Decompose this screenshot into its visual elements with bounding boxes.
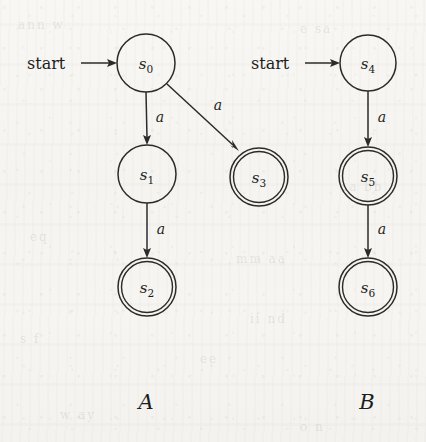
state-s6[interactable]: s6 — [339, 258, 397, 316]
state-s0-label: s0 — [139, 55, 153, 75]
machine-name-A: A — [136, 390, 153, 414]
start-arrow-s0 — [81, 59, 117, 67]
state-s5-label: s5 — [361, 168, 375, 188]
edge-s0-s1 — [143, 92, 151, 145]
state-s4[interactable]: s4 — [340, 35, 396, 91]
state-s3-label: s3 — [252, 169, 266, 189]
automaton-B: start s4 a s5 a — [251, 35, 397, 414]
state-s2[interactable]: s2 — [118, 258, 176, 316]
edge-label-s4-s5: a — [378, 109, 386, 125]
edge-s0-s3 — [167, 84, 239, 151]
automata-svg: start s0 a a s1 — [0, 0, 426, 442]
machine-name-B: B — [358, 390, 374, 414]
edge-s1-s2 — [143, 203, 151, 258]
state-s6-label: s6 — [361, 279, 376, 299]
edge-s4-s5 — [364, 91, 372, 147]
state-s1[interactable]: s1 — [118, 145, 176, 203]
start-label-B: start — [251, 54, 290, 73]
automata-figure: ann w e sa eq mm aa s f ii nd w ay o n e… — [0, 0, 426, 442]
state-s1-label: s1 — [140, 166, 154, 186]
state-s4-label: s4 — [361, 55, 376, 75]
start-arrow-s4 — [305, 59, 340, 67]
state-s0[interactable]: s0 — [117, 34, 175, 92]
edge-label-s0-s1: a — [156, 109, 164, 125]
state-s3[interactable]: s3 — [230, 148, 288, 206]
edge-label-s5-s6: a — [378, 221, 386, 237]
edge-label-s0-s3: a — [214, 97, 222, 113]
state-s2-label: s2 — [140, 279, 154, 299]
state-s5[interactable]: s5 — [339, 147, 397, 205]
edge-s5-s6 — [364, 205, 372, 258]
start-label-A: start — [27, 54, 66, 73]
edge-label-s1-s2: a — [157, 221, 165, 237]
automaton-A: start s0 a a s1 — [27, 34, 288, 414]
